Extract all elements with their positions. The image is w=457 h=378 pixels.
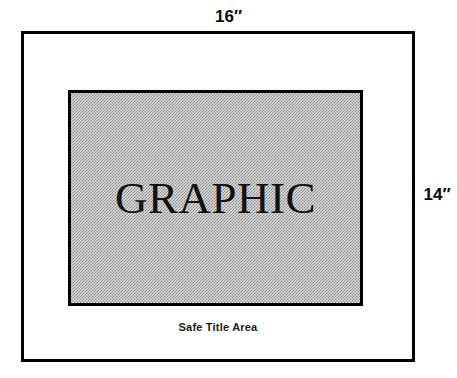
graphic-area-label: GRAPHIC — [71, 176, 360, 221]
safe-title-area-caption: Safe Title Area — [21, 322, 415, 333]
graphic-area: GRAPHIC — [68, 90, 363, 306]
dimension-label-overall-height: 14″ — [419, 186, 455, 203]
dimension-label-overall-width: 16″ — [0, 8, 457, 25]
diagram-canvas: 16″ 12″ 9″ 14″ GRAPHIC Safe Title Area — [0, 0, 457, 378]
